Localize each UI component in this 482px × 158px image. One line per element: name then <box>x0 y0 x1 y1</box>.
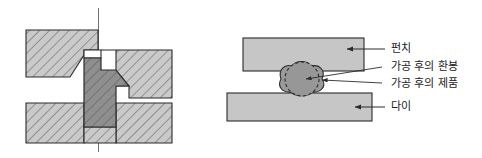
round-bar-outline <box>285 62 319 96</box>
lower-right-die-block <box>116 103 172 143</box>
lower-die-bridge <box>84 127 116 143</box>
technical-diagram-svg: 펀치 가공 후의 환봉 가공 후의 제품 다이 <box>0 0 482 158</box>
lower-left-die-block <box>26 103 84 143</box>
left-diagram-group <box>26 8 172 152</box>
relief-pocket <box>84 50 101 58</box>
label-product-after-forming: 가공 후의 제품 <box>391 77 458 90</box>
label-die: 다이 <box>391 100 411 113</box>
right-diagram-group: 펀치 가공 후의 환봉 가공 후의 제품 다이 <box>227 38 458 121</box>
product-leader-line <box>322 80 382 83</box>
label-punch: 펀치 <box>391 42 411 55</box>
label-round-bar-after-forming: 가공 후의 환봉 <box>391 60 458 73</box>
die-block <box>227 93 372 121</box>
figure-container: 펀치 가공 후의 환봉 가공 후의 제품 다이 <box>0 0 482 158</box>
